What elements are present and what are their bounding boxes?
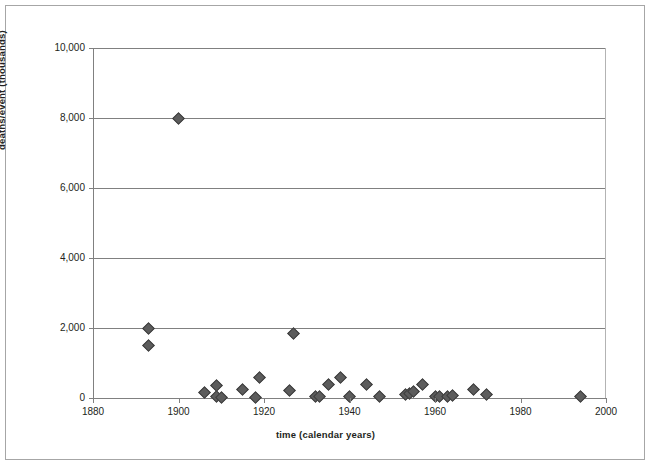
y-axis-title: deaths/event (thousands) <box>0 0 7 150</box>
gridline-y-6000 <box>93 188 606 189</box>
gridline-y-8000 <box>93 118 606 119</box>
plot-right-edge <box>605 48 606 398</box>
x-tick-label-1940: 1940 <box>325 406 375 418</box>
y-tick-mark-4000 <box>89 258 93 259</box>
x-tick-mark-1960 <box>435 398 436 403</box>
x-tick-label-1920: 1920 <box>239 406 289 418</box>
x-tick-mark-1940 <box>350 398 351 403</box>
y-tick-label-2000: 2,000 <box>27 323 85 333</box>
y-tick-label-8000: 8,000 <box>27 113 85 123</box>
chart-figure: 02,0004,0006,0008,00010,000 188019001920… <box>0 0 651 466</box>
x-tick-label-1900: 1900 <box>154 406 204 418</box>
y-tick-label-6000: 6,000 <box>27 183 85 193</box>
x-tick-label-1960: 1960 <box>410 406 460 418</box>
y-tick-mark-10000 <box>89 48 93 49</box>
y-tick-mark-6000 <box>89 188 93 189</box>
x-tick-mark-1880 <box>93 398 94 403</box>
gridline-y-10000 <box>93 48 606 49</box>
gridline-y-2000 <box>93 328 606 329</box>
y-tick-label-0: 0 <box>27 393 85 403</box>
y-axis-line <box>93 48 94 398</box>
y-tick-mark-2000 <box>89 328 93 329</box>
x-tick-mark-1920 <box>264 398 265 403</box>
x-tick-mark-1900 <box>179 398 180 403</box>
x-tick-mark-2000 <box>606 398 607 403</box>
gridline-y-4000 <box>93 258 606 259</box>
y-tick-label-4000: 4,000 <box>27 253 85 263</box>
x-tick-label-1880: 1880 <box>68 406 118 418</box>
x-tick-label-1980: 1980 <box>496 406 546 418</box>
x-tick-mark-1980 <box>521 398 522 403</box>
x-tick-label-2000: 2000 <box>581 406 631 418</box>
x-axis-title: time (calendar years) <box>0 429 651 440</box>
plot-area <box>93 48 606 398</box>
plot-background <box>93 48 606 398</box>
y-tick-label-10000: 10,000 <box>27 43 85 53</box>
y-tick-mark-8000 <box>89 118 93 119</box>
